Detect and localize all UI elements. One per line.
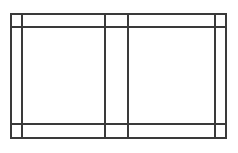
court-diagram-figure xyxy=(0,0,238,153)
court-diagram-svg xyxy=(0,0,238,153)
diagram-background xyxy=(0,0,238,153)
